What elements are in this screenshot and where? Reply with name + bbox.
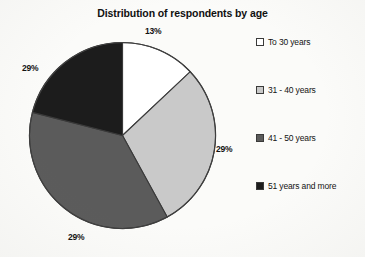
- legend-swatch-icon-31-40-years: [256, 86, 264, 94]
- slice-value-label-to-30-years: 13%: [145, 26, 161, 36]
- pie-chart-figure: Distribution of respondents by age 13% 2…: [0, 0, 365, 257]
- pie-plot-area: [28, 40, 218, 232]
- pie-svg: [28, 40, 218, 232]
- legend-label-51-years-and-more: 51 years and more: [268, 181, 336, 191]
- slice-value-label-31-40-years: 29%: [216, 144, 232, 154]
- legend-label-31-40-years: 31 - 40 years: [268, 85, 316, 95]
- chart-legend: To 30 years 31 - 40 years 41 - 50 years …: [256, 36, 362, 228]
- legend-item-to-30-years: To 30 years: [256, 36, 362, 48]
- legend-label-to-30-years: To 30 years: [268, 37, 310, 47]
- slice-value-label-41-50-years: 29%: [68, 232, 84, 242]
- slice-value-label-51-years-and-more: 29%: [22, 63, 38, 73]
- legend-label-41-50-years: 41 - 50 years: [268, 133, 316, 143]
- legend-item-41-50-years: 41 - 50 years: [256, 132, 362, 144]
- legend-swatch-icon-to-30-years: [256, 38, 264, 46]
- chart-title: Distribution of respondents by age: [0, 7, 365, 19]
- legend-item-31-40-years: 31 - 40 years: [256, 84, 362, 96]
- legend-swatch-icon-41-50-years: [256, 134, 264, 142]
- legend-swatch-icon-51-years-and-more: [256, 182, 264, 190]
- legend-item-51-years-and-more: 51 years and more: [256, 180, 362, 192]
